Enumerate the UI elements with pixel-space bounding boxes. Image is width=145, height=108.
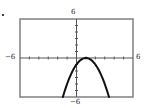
plot-area (0, 0, 145, 108)
parabola-curve (63, 58, 109, 97)
axes (20, 19, 133, 97)
